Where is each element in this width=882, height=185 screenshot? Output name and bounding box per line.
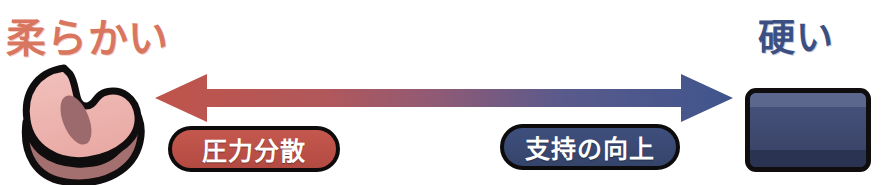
hard-block-icon: [745, 88, 871, 172]
diagram-canvas: 柔らかい 硬い: [0, 0, 882, 185]
hard-block-highlight-band: [750, 93, 866, 107]
badge-support-improvement-label: 支持の向上: [525, 129, 655, 165]
soft-end-label: 柔らかい: [6, 18, 169, 58]
spectrum-double-arrow: [155, 72, 733, 124]
badge-pressure-dispersion-label: 圧力分散: [202, 131, 306, 167]
hard-end-label: 硬い: [758, 20, 833, 57]
badge-support-improvement[interactable]: 支持の向上: [500, 124, 680, 170]
badge-pressure-dispersion[interactable]: 圧力分散: [168, 126, 340, 172]
hard-block-shadow-band: [750, 150, 866, 167]
hard-block-body-band: [750, 107, 866, 150]
soft-bean-cushion-icon: [18, 62, 158, 185]
